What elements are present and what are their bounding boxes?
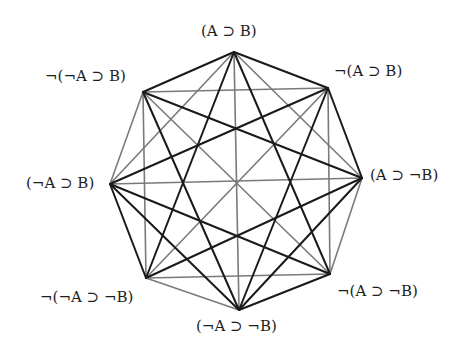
node-label-lower-right: ¬(A ⊃ ¬B) (337, 284, 418, 299)
node-label-right: (A ⊃ ¬B) (370, 168, 438, 183)
node-label-bottom: (¬A ⊃ ¬B) (196, 319, 277, 334)
edge-B-LL (146, 278, 239, 310)
edge-group (110, 52, 362, 310)
edge-UR-LR (328, 88, 330, 274)
edge-UR-R (328, 88, 362, 178)
node-label-left: (¬A ⊃ B) (26, 176, 94, 191)
node-label-upper-left: ¬(¬A ⊃ B) (45, 69, 126, 84)
node-label-upper-right: ¬(A ⊃ B) (334, 64, 402, 79)
edge-LL-UL (143, 92, 146, 278)
edge-R-LR (330, 178, 362, 274)
edge-L-UL (110, 92, 143, 184)
node-label-lower-left: ¬(¬A ⊃ ¬B) (40, 290, 133, 305)
node-label-top: (A ⊃ B) (201, 24, 257, 39)
edge-LR-B (239, 274, 330, 310)
edge-L-T (110, 52, 234, 184)
edge-LL-L (110, 184, 146, 278)
